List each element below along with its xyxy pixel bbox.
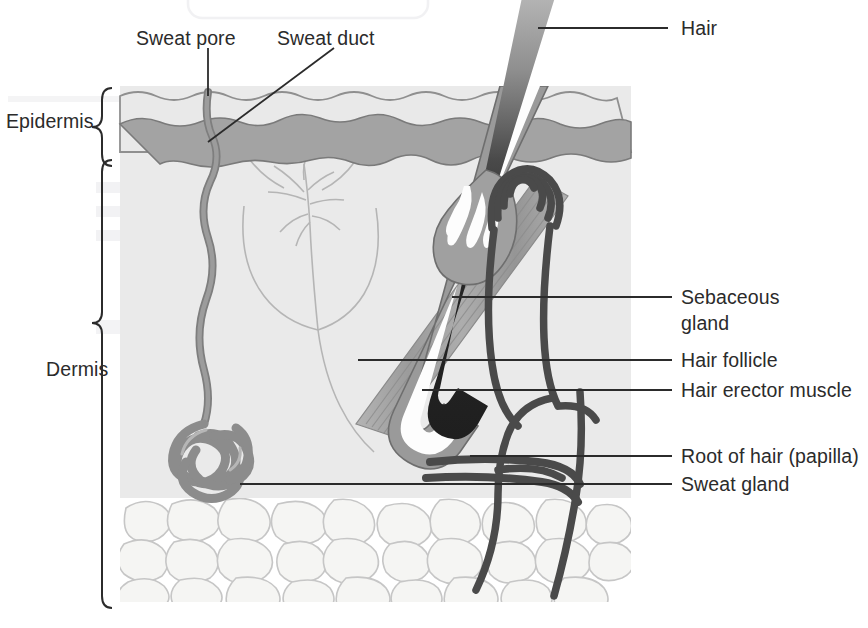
label-hair-follicle: Hair follicle bbox=[681, 349, 778, 372]
layer-braces bbox=[92, 88, 112, 608]
label-hair-erector-muscle: Hair erector muscle bbox=[681, 379, 852, 402]
label-sebaceous-gland-line2: gland bbox=[681, 312, 729, 335]
label-sweat-duct: Sweat duct bbox=[277, 27, 374, 50]
skin-cross-section-illustration bbox=[0, 0, 868, 628]
label-sebaceous-gland-line1: Sebaceous bbox=[681, 286, 779, 309]
epidermis-layer bbox=[120, 92, 631, 167]
label-root-of-hair: Root of hair (papilla) bbox=[681, 445, 859, 468]
label-epidermis: Epidermis bbox=[6, 110, 94, 133]
label-dermis: Dermis bbox=[46, 358, 108, 381]
label-sweat-pore: Sweat pore bbox=[136, 27, 236, 50]
dermis-brace bbox=[92, 160, 112, 608]
skin-diagram-figure: Sweat pore Sweat duct Hair Sebaceous gla… bbox=[0, 0, 868, 628]
label-hair: Hair bbox=[681, 17, 717, 40]
label-sweat-gland: Sweat gland bbox=[681, 473, 789, 496]
